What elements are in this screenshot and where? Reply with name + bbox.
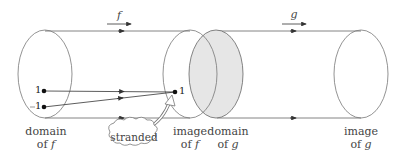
- domain-g-label: domain of g: [202, 125, 254, 151]
- domain-f-label: domain of f: [20, 125, 72, 151]
- mapping-line-upper: [44, 91, 175, 92]
- f-label: f: [111, 9, 127, 22]
- domain-point-lower: [42, 105, 47, 110]
- domain-point-upper: [42, 89, 47, 94]
- image-point: [173, 90, 178, 95]
- function-composition-diagram: f g 1 1 1 domain of f image of f domain …: [0, 0, 402, 162]
- domain-g-ellipse: [189, 30, 243, 118]
- domain-point-lower-label: 1: [35, 100, 41, 111]
- mapping-line-lower: [44, 92, 175, 107]
- g-label: g: [286, 8, 302, 21]
- domain-point-upper-label: 1: [35, 84, 41, 95]
- image-g-label: image of g: [336, 125, 386, 151]
- image-g-ellipse: [334, 30, 388, 118]
- stranded-text: stranded: [108, 131, 160, 144]
- image-point-label: 1: [179, 85, 185, 96]
